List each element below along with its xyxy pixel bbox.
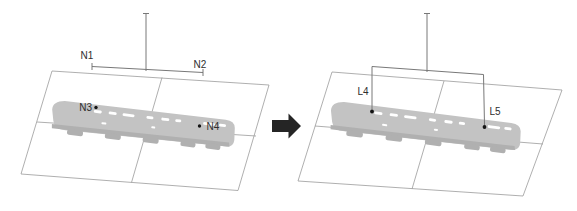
marker-dot-n4 <box>198 124 201 127</box>
marker-dot-l5 <box>483 125 487 129</box>
measure-span-line <box>92 67 203 73</box>
label-n4: N4 <box>207 121 220 132</box>
label-l5: L5 <box>489 106 501 117</box>
label-n1: N1 <box>81 50 94 61</box>
measure-bracket-line <box>372 67 484 75</box>
marker-dot-n3 <box>94 106 97 109</box>
label-n3: N3 <box>79 102 92 113</box>
measure-drop-line-l5 <box>484 75 485 126</box>
label-n2: N2 <box>194 59 207 70</box>
transform-arrow-icon <box>272 114 301 139</box>
span-measurement-before <box>92 14 203 77</box>
figure-canvas: N1 N2 N3 N4 <box>0 0 577 211</box>
before-panel: N1 N2 N3 N4 <box>21 14 269 191</box>
point-cloud-measurement-figure: N1 N2 N3 N4 <box>0 0 577 211</box>
label-l4: L4 <box>357 86 369 97</box>
marker-dot-l4 <box>370 110 374 114</box>
after-panel: L4 L5 <box>298 14 562 197</box>
